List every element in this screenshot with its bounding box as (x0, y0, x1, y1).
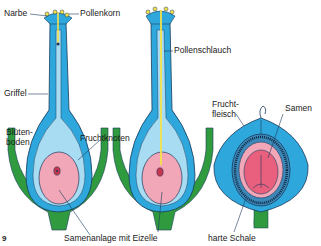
label-narbe: Narbe (4, 9, 27, 18)
label-pollenkorn: Pollenkorn (80, 9, 120, 18)
label-fruchtfleisch-2: fleisch (212, 110, 236, 119)
label-griffel: Griffel (4, 89, 27, 98)
figure-number: 9 (2, 234, 6, 243)
label-samenanlage: Samenanlage mit Eizelle (64, 234, 158, 243)
label-harte-schale: harte Schale (208, 234, 256, 243)
label-bluetenboden-2: boden (6, 138, 30, 147)
pistil-stage-1 (8, 10, 108, 235)
label-fruchtfleisch-1: Frucht- (212, 100, 239, 109)
label-bluetenboden-1: Blüten- (6, 128, 33, 137)
ovule (39, 152, 79, 204)
pistil-stage-2 (113, 7, 213, 232)
label-pollenschlauch: Pollenschlauch (174, 46, 231, 55)
label-samen: Samen (285, 104, 312, 113)
fruit-stage (214, 106, 308, 232)
label-fruchtknoten: Fruchtknoten (80, 134, 130, 143)
flower-fertilization-diagram (0, 0, 321, 246)
